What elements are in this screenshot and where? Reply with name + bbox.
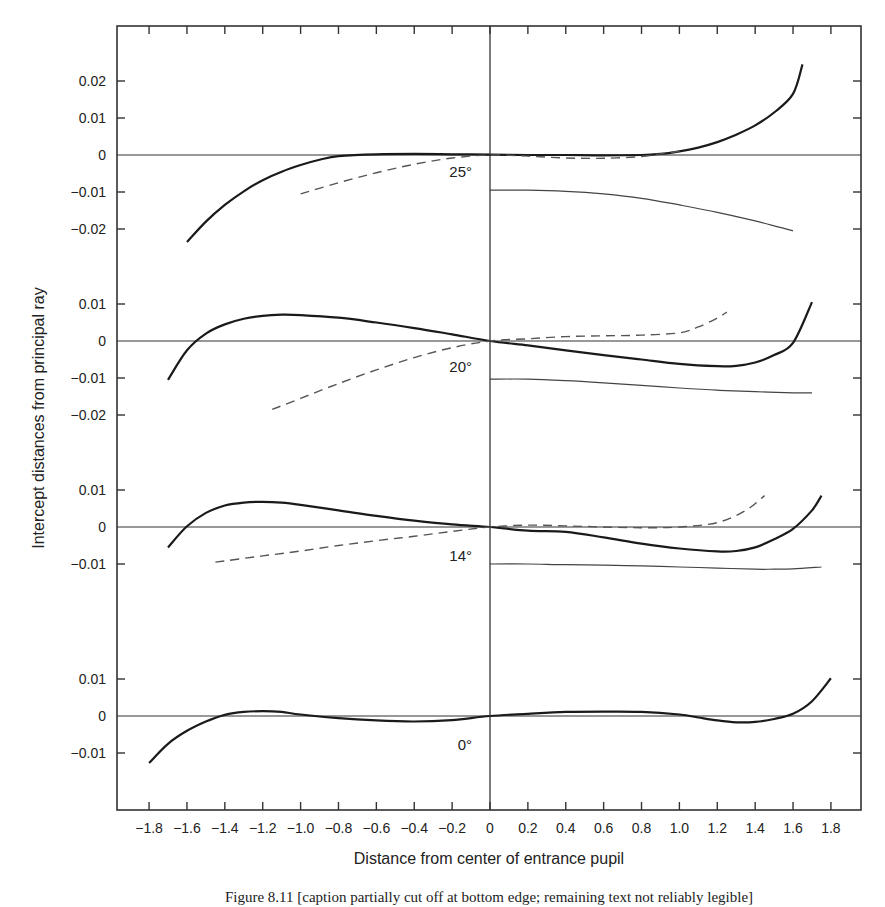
y-tick-label: −0.01 <box>71 184 107 200</box>
x-tick-label: −0.4 <box>400 820 428 836</box>
y-tick-label: 0.01 <box>79 110 106 126</box>
x-tick-label: −0.2 <box>438 820 466 836</box>
plot-frame <box>117 26 861 810</box>
y-tick-label: 0 <box>98 519 106 535</box>
figure-caption: Figure 8.11 [caption partially cut off a… <box>225 889 753 905</box>
panels-layer: 0.020.010−0.01−0.0225°0.010−0.01−0.0220°… <box>71 64 861 763</box>
third-curve <box>490 190 793 231</box>
third-curve <box>490 379 812 393</box>
x-tick-label: −0.8 <box>325 820 353 836</box>
y-tick-label: 0.02 <box>79 73 106 89</box>
x-tick-label: 1.6 <box>783 820 803 836</box>
y-tick-label: 0.01 <box>79 296 106 312</box>
x-tick-label: 0.6 <box>594 820 614 836</box>
y-tick-label: −0.01 <box>71 370 107 386</box>
panel-20deg: 0.010−0.01−0.0220° <box>71 296 861 423</box>
panel-0deg: 0.010−0.010° <box>71 671 861 763</box>
x-tick-label: −1.6 <box>173 820 201 836</box>
meridional-curve <box>168 496 822 552</box>
x-axis-title: Distance from center of entrance pupil <box>354 850 624 867</box>
third-curve <box>490 564 822 569</box>
x-tick-label: 0.8 <box>632 820 652 836</box>
y-tick-label: −0.02 <box>71 221 107 237</box>
y-tick-label: −0.01 <box>71 556 107 572</box>
x-tick-label: 1.0 <box>670 820 690 836</box>
x-tick-label: 1.2 <box>708 820 728 836</box>
angle-label: 14° <box>449 547 472 564</box>
x-tick-label: 0 <box>486 820 494 836</box>
angle-label: 20° <box>449 358 472 375</box>
angle-label: 25° <box>449 163 472 180</box>
x-tick-label: −1.8 <box>135 820 163 836</box>
x-tick-label: 0.2 <box>518 820 538 836</box>
y-tick-label: 0.01 <box>79 482 106 498</box>
y-tick-label: 0 <box>98 147 106 163</box>
panel-14deg: 0.010−0.0114° <box>71 482 861 572</box>
x-tick-label: −1.0 <box>287 820 315 836</box>
x-tick-label: 1.4 <box>745 820 765 836</box>
y-tick-label: 0.01 <box>79 671 106 687</box>
y-tick-label: −0.01 <box>71 745 107 761</box>
y-axis-title: Intercept distances from principal ray <box>30 287 47 548</box>
x-tick-label: −0.6 <box>363 820 391 836</box>
y-tick-label: 0 <box>98 708 106 724</box>
meridional-curve <box>187 64 803 242</box>
x-tick-label: 0.4 <box>556 820 576 836</box>
angle-label: 0° <box>458 736 472 753</box>
y-tick-label: −0.02 <box>71 407 107 423</box>
y-tick-label: 0 <box>98 333 106 349</box>
figure: 0.020.010−0.01−0.0225°0.010−0.01−0.0220°… <box>0 0 885 907</box>
x-tick-label: 1.8 <box>821 820 841 836</box>
ray-intercept-plot: 0.020.010−0.01−0.0225°0.010−0.01−0.0220°… <box>0 0 885 907</box>
x-tick-label: −1.2 <box>249 820 277 836</box>
x-axis-ticks: −1.8−1.6−1.4−1.2−1.0−0.8−0.6−0.4−0.200.2… <box>135 26 841 836</box>
x-tick-label: −1.4 <box>211 820 239 836</box>
panel-25deg: 0.020.010−0.01−0.0225° <box>71 64 861 242</box>
